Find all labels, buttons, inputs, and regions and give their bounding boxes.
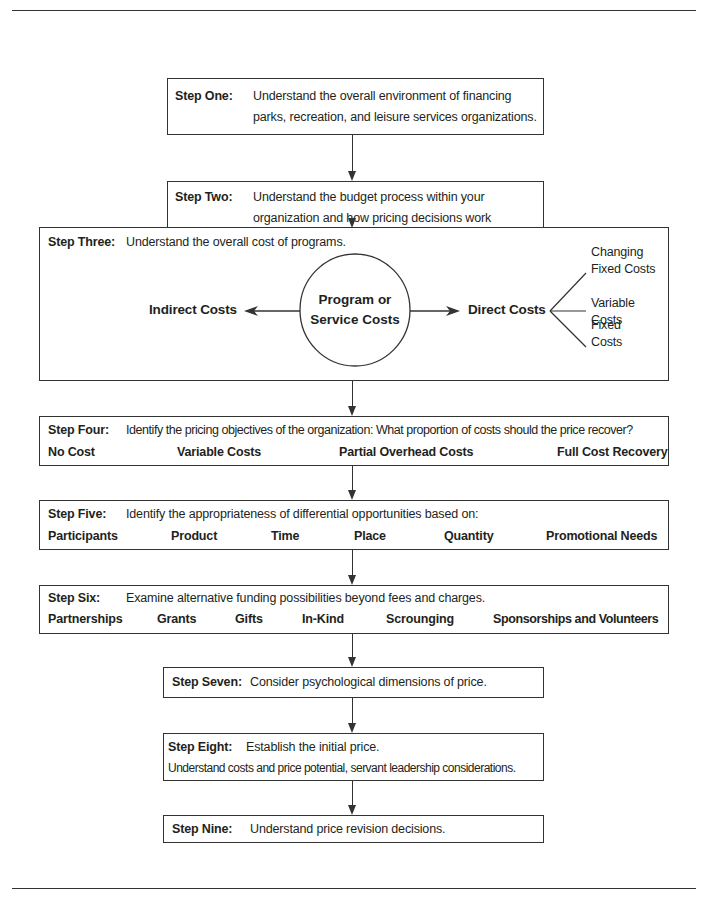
program-service-costs-circle: Program or Service Costs bbox=[300, 290, 410, 330]
option-participants: Participants bbox=[48, 529, 118, 543]
step-six-box: Step Six: Examine alternative funding po… bbox=[39, 585, 669, 634]
step-seven-label: Step Seven: bbox=[172, 675, 242, 689]
branch-fixed-line1: Fixed bbox=[591, 318, 621, 332]
step-four-box: Step Four: Identify the pricing objectiv… bbox=[39, 416, 669, 466]
step-four-text: Identify the pricing objectives of the o… bbox=[126, 423, 633, 437]
option-full-cost-recovery: Full Cost Recovery bbox=[557, 445, 668, 459]
step-five-box: Step Five: Identify the appropriateness … bbox=[39, 500, 669, 550]
step-eight-text: Establish the initial price. bbox=[246, 740, 379, 754]
option-no-cost: No Cost bbox=[48, 445, 95, 459]
connector-7-8 bbox=[352, 698, 353, 723]
circle-line2: Service Costs bbox=[300, 310, 410, 330]
connector-8-9 bbox=[352, 781, 353, 805]
arrow-down-icon bbox=[348, 575, 356, 585]
option-gifts: Gifts bbox=[235, 612, 263, 626]
step-eight-box: Step Eight: Establish the initial price.… bbox=[163, 733, 544, 781]
option-product: Product bbox=[171, 529, 217, 543]
step-five-text: Identify the appropriateness of differen… bbox=[126, 507, 478, 521]
step-eight-line2: Understand costs and price potential, se… bbox=[168, 761, 516, 775]
branch-line1: Changing bbox=[591, 245, 643, 259]
option-place: Place bbox=[354, 529, 386, 543]
step-nine-text: Understand price revision decisions. bbox=[250, 822, 445, 836]
option-in-kind: In-Kind bbox=[302, 612, 344, 626]
arrow-down-icon bbox=[348, 490, 356, 500]
step-seven-text: Consider psychological dimensions of pri… bbox=[250, 675, 487, 689]
option-scrounging: Scrounging bbox=[386, 612, 454, 626]
step-six-text: Examine alternative funding possibilitie… bbox=[126, 591, 485, 605]
option-grants: Grants bbox=[157, 612, 196, 626]
indirect-costs-label: Indirect Costs bbox=[149, 302, 237, 317]
arrow-down-icon bbox=[348, 406, 356, 416]
direct-costs-label: Direct Costs bbox=[468, 302, 546, 317]
arrow-down-icon bbox=[348, 657, 356, 667]
branch-line1: Variable bbox=[591, 296, 635, 310]
connector-5-6 bbox=[352, 550, 353, 575]
connector-4-5 bbox=[352, 466, 353, 490]
connector-3-4 bbox=[352, 381, 353, 407]
step-six-label: Step Six: bbox=[48, 591, 100, 605]
step-seven-box: Step Seven: Consider psychological dimen… bbox=[163, 667, 544, 698]
branch-line2: Fixed Costs bbox=[591, 262, 655, 276]
option-promotional-needs: Promotional Needs bbox=[546, 529, 657, 543]
arrow-down-icon bbox=[348, 723, 356, 733]
step-nine-label: Step Nine: bbox=[172, 822, 232, 836]
option-partnerships: Partnerships bbox=[48, 612, 123, 626]
option-quantity: Quantity bbox=[444, 529, 494, 543]
option-sponsorships-volunteers: Sponsorships and Volunteers bbox=[493, 612, 658, 626]
option-time: Time bbox=[271, 529, 299, 543]
circle-line1: Program or bbox=[300, 290, 410, 310]
branch-fixed-line2: Costs bbox=[591, 335, 622, 349]
step-five-label: Step Five: bbox=[48, 507, 106, 521]
arrow-down-icon bbox=[348, 805, 356, 815]
option-variable-costs: Variable Costs bbox=[177, 445, 261, 459]
step-four-label: Step Four: bbox=[48, 423, 109, 437]
option-partial-overhead: Partial Overhead Costs bbox=[339, 445, 473, 459]
connector-6-7 bbox=[352, 634, 353, 657]
step-eight-label: Step Eight: bbox=[168, 740, 232, 754]
step-nine-box: Step Nine: Understand price revision dec… bbox=[163, 815, 544, 843]
